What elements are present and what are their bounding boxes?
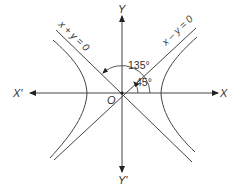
hyperbola-left-branch — [50, 40, 87, 158]
asymptote-x-minus-y-label: x – y = 0 — [159, 13, 195, 48]
x-negative-axis-label: X' — [12, 87, 23, 99]
origin-point — [120, 91, 123, 94]
x-axis-label: X — [219, 87, 228, 99]
angle-label-45: 45° — [136, 76, 152, 88]
hyperbola-diagram: X X' Y Y' O x + y = 0 x – y = 0 135° 45° — [0, 0, 234, 186]
y-axis-label: Y — [118, 3, 126, 15]
origin-label: O — [107, 94, 116, 106]
asymptote-x-minus-y — [54, 28, 196, 160]
angle-label-135: 135° — [128, 59, 150, 71]
y-negative-axis-label: Y' — [118, 174, 128, 186]
hyperbola-right-branch — [161, 37, 197, 152]
asymptote-x-plus-y — [56, 30, 192, 162]
